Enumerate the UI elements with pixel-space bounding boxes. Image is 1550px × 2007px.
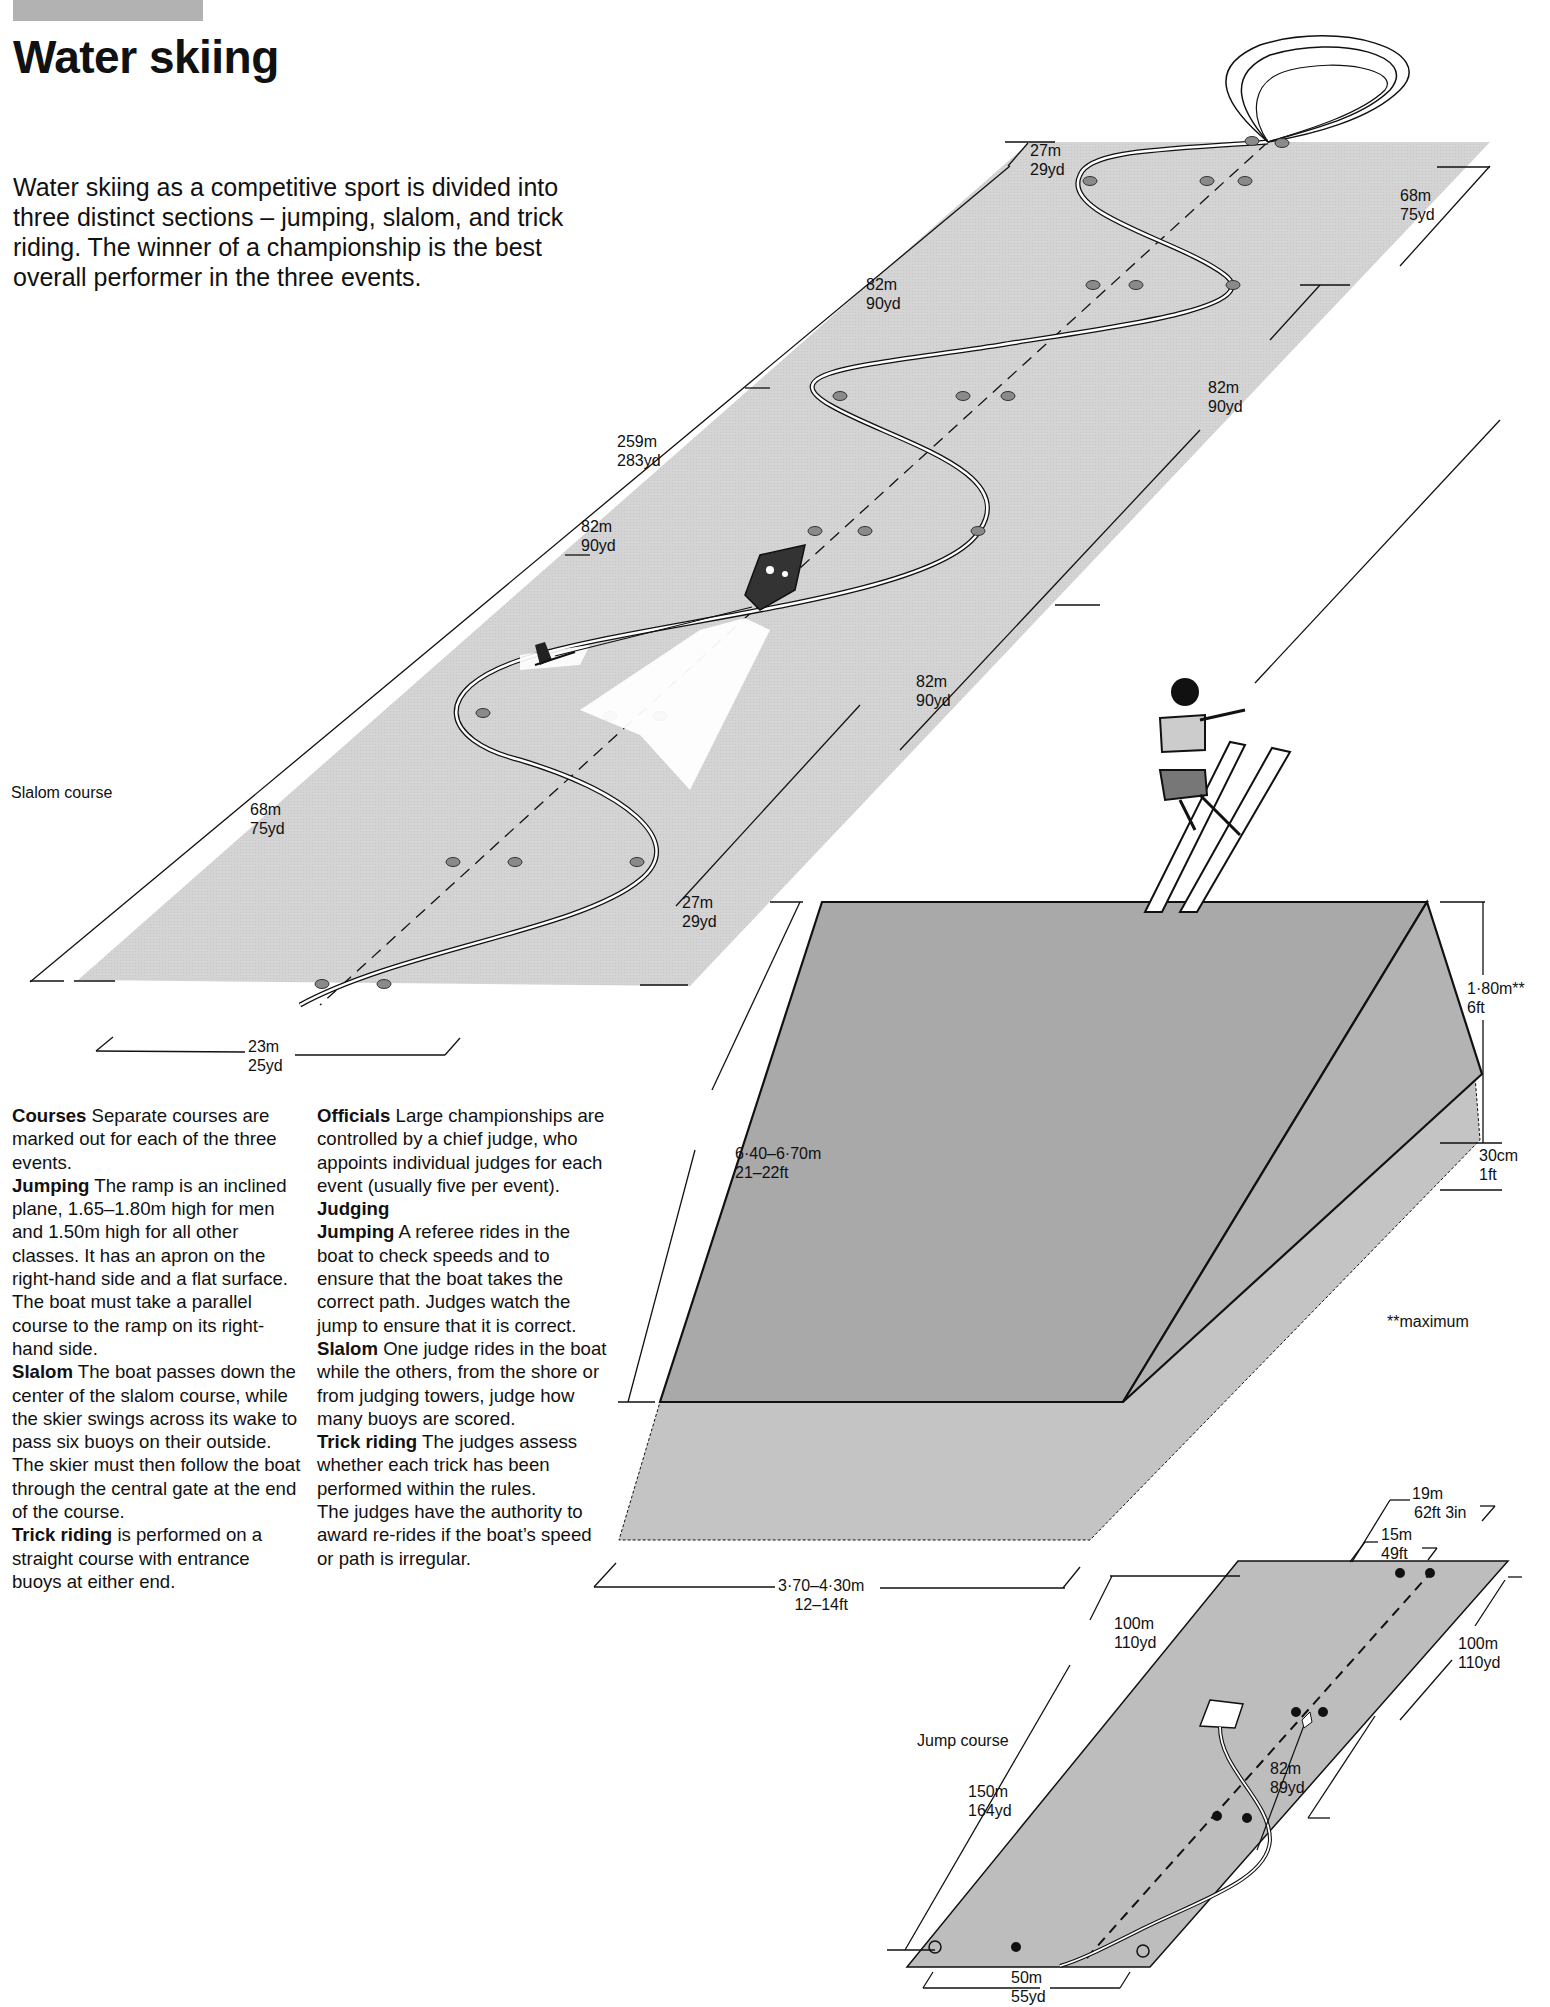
dim-ramp-apron: 30cm1ft [1479, 1146, 1518, 1184]
dim-jump-right: 82m89yd [1270, 1759, 1305, 1797]
dim-jump-base: 50m55yd [1011, 1968, 1046, 2006]
slalom-caption: Slalom course [11, 784, 112, 802]
jump-skier-icon [1145, 678, 1290, 912]
dim-ramp-width: 3·70–4·30m12–14ft [778, 1576, 864, 1614]
dim-jump-outer: 19m62ft 3in [1412, 1484, 1466, 1522]
dim-slalom-seg1: 82m90yd [866, 275, 901, 313]
dim-slalom-total: 259m283yd [617, 432, 661, 470]
dim-slalom-width: 23m25yd [248, 1037, 283, 1075]
dim-jump-inner: 15m49ft [1381, 1525, 1412, 1563]
para-judging-trick: Trick riding The judges assess whether e… [317, 1430, 609, 1500]
text-column-right: Officials Large championships are contro… [317, 1104, 609, 1570]
para-boat: The boat must take a parallel course to … [12, 1290, 304, 1360]
dim-slalom-bottom-left: 68m75yd [250, 800, 285, 838]
dim-slalom-top-end: 27m29yd [1030, 141, 1065, 179]
para-rerides: The judges have the authority to award r… [317, 1500, 609, 1570]
ramp-footnote: **maximum [1387, 1312, 1469, 1331]
dim-slalom-seg3: 82m90yd [581, 517, 616, 555]
text-column-left: Courses Separate courses are marked out … [12, 1104, 304, 1593]
dim-slalom-top-right: 68m75yd [1400, 186, 1435, 224]
dim-jump-left: 150m164yd [968, 1782, 1012, 1820]
para-courses: Courses Separate courses are marked out … [12, 1104, 304, 1174]
para-trick-riding: Trick riding is performed on a straight … [12, 1523, 304, 1593]
dim-slalom-seg4: 82m90yd [916, 672, 951, 710]
dim-jump-left-top: 100m110yd [1114, 1614, 1156, 1652]
dim-slalom-bottom-end: 27m29yd [682, 893, 717, 931]
dim-jump-right-top: 100m110yd [1458, 1634, 1500, 1672]
dim-slalom-seg2: 82m90yd [1208, 378, 1243, 416]
para-slalom: Slalom The boat passes down the center o… [12, 1360, 304, 1523]
dim-ramp-height: 1·80m**6ft [1467, 979, 1525, 1017]
illustration [0, 0, 1550, 2007]
jump-water [907, 1561, 1508, 1967]
para-judging-heading: Judging [317, 1197, 609, 1220]
para-officials: Officials Large championships are contro… [317, 1104, 609, 1197]
dim-ramp-length: 6·40–6·70m21–22ft [735, 1144, 821, 1182]
para-judging-jumping: Jumping A referee rides in the boat to c… [317, 1220, 609, 1336]
slalom-course-diagram [30, 36, 1490, 1005]
para-jumping: Jumping The ramp is an inclined plane, 1… [12, 1174, 304, 1290]
jump-caption: Jump course [917, 1732, 1009, 1750]
para-judging-slalom: Slalom One judge rides in the boat while… [317, 1337, 609, 1430]
